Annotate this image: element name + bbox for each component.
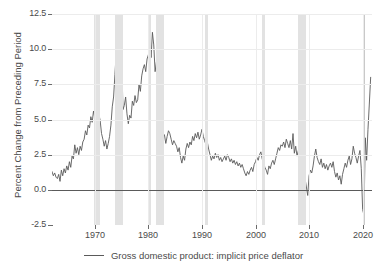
- gridline-horizontal: [52, 84, 372, 85]
- gridline-vertical: [256, 14, 257, 225]
- x-axis-tick-label: 2000: [236, 231, 276, 240]
- x-axis-tick: [148, 225, 149, 229]
- zero-line: [52, 190, 372, 191]
- y-axis-tick-label: 5.0: [2, 115, 46, 124]
- gridline-horizontal: [52, 155, 372, 156]
- gridline-vertical: [309, 14, 310, 225]
- x-axis-tick-label: 1980: [128, 231, 168, 240]
- x-axis-tick-label: 2020: [343, 231, 383, 240]
- legend-swatch-gdp-deflator: [84, 255, 104, 256]
- gridline-vertical: [95, 14, 96, 225]
- y-axis-tick-label: 2.5: [2, 150, 46, 159]
- y-axis-tick-label: 7.5: [2, 79, 46, 88]
- gridline-horizontal: [52, 120, 372, 121]
- y-axis-tick-label: 10.0: [2, 44, 46, 53]
- series-line-path: [52, 17, 371, 215]
- x-axis-tick: [363, 225, 364, 229]
- x-axis-tick: [95, 225, 96, 229]
- y-axis-tick-label: 0.0: [2, 185, 46, 194]
- x-axis-tick-label: 1990: [182, 231, 222, 240]
- gridline-vertical: [202, 14, 203, 225]
- gridline-horizontal: [52, 49, 372, 50]
- gridline-horizontal: [52, 14, 372, 15]
- x-axis-tick-label: 1970: [75, 231, 115, 240]
- gridline-vertical: [363, 14, 364, 225]
- y-axis-tick-label: -2.5: [2, 220, 46, 229]
- gridline-vertical: [148, 14, 149, 225]
- x-axis-tick: [202, 225, 203, 229]
- x-axis-tick-label: 2010: [289, 231, 329, 240]
- legend: Gross domestic product: implicit price d…: [0, 250, 387, 261]
- x-axis-tick: [256, 225, 257, 229]
- x-axis-tick: [309, 225, 310, 229]
- plot-area: [52, 14, 372, 225]
- chart-root: Percent Change from Preceding Period -2.…: [0, 0, 387, 272]
- legend-label-gdp-deflator: Gross domestic product: implicit price d…: [111, 250, 303, 261]
- y-axis-tick-label: 12.5: [2, 9, 46, 18]
